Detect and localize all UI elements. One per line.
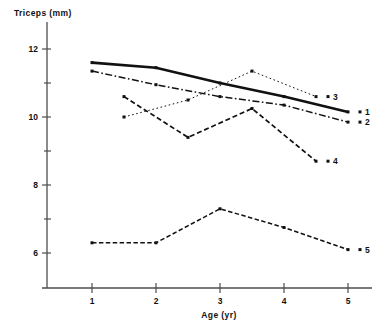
y-tick-label-12: 12	[29, 44, 39, 54]
series-label-1: 1	[365, 107, 370, 117]
x-axis-title: Age (yr)	[201, 310, 236, 320]
data-point	[91, 70, 94, 73]
series-label-dot-5	[359, 248, 362, 251]
data-point	[123, 116, 126, 119]
triceps-vs-age-chart: Triceps (mm) Age (yr) 681012 12345 12345	[0, 0, 390, 334]
data-point	[155, 66, 158, 69]
data-point	[283, 226, 286, 229]
data-point	[155, 241, 158, 244]
y-axis-title: Triceps (mm)	[14, 8, 72, 18]
series-line-5	[92, 209, 348, 250]
data-point	[315, 160, 318, 163]
data-point	[91, 61, 94, 64]
x-tick-label-2: 2	[154, 296, 159, 306]
data-point	[347, 110, 350, 113]
data-point	[283, 95, 286, 98]
series-line-1	[92, 63, 348, 112]
data-point	[347, 248, 350, 251]
data-point	[219, 82, 222, 85]
x-tick-label-1: 1	[90, 296, 95, 306]
series-label-dot-3	[327, 95, 330, 98]
series-line-3	[124, 71, 316, 117]
x-axis-ticks: 12345	[90, 283, 351, 306]
series-label-dot-2	[359, 121, 362, 124]
data-point	[315, 95, 318, 98]
data-point	[219, 207, 222, 210]
data-point	[283, 104, 286, 107]
y-tick-label-6: 6	[33, 248, 38, 258]
series-line-4	[124, 97, 316, 162]
x-tick-label-5: 5	[346, 296, 351, 306]
series-label-5: 5	[365, 245, 370, 255]
data-point	[251, 107, 254, 110]
data-point	[219, 95, 222, 98]
series-label-4: 4	[333, 156, 338, 166]
series-label-dot-4	[327, 160, 330, 163]
series-layer	[92, 63, 348, 250]
data-point	[91, 241, 94, 244]
x-tick-label-3: 3	[218, 296, 223, 306]
data-point	[251, 70, 254, 73]
data-point	[155, 83, 158, 86]
series-label-2: 2	[365, 117, 370, 127]
series-label-3: 3	[333, 92, 338, 102]
data-point	[187, 99, 190, 102]
y-tick-label-10: 10	[29, 112, 39, 122]
y-tick-label-8: 8	[33, 180, 38, 190]
data-point	[347, 121, 350, 124]
series-label-dot-1	[359, 110, 362, 113]
x-tick-label-4: 4	[282, 296, 287, 306]
data-point	[123, 95, 126, 98]
data-point	[187, 136, 190, 139]
series-labels-layer: 12345	[327, 92, 371, 255]
chart-svg: Triceps (mm) Age (yr) 681012 12345 12345	[0, 0, 390, 334]
